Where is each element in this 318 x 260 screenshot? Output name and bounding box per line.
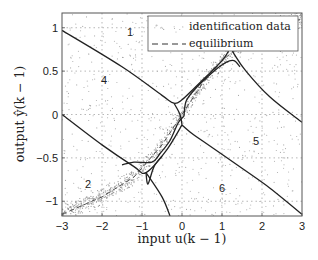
data-point — [132, 175, 133, 176]
data-point — [248, 178, 249, 179]
data-point — [96, 202, 97, 203]
data-point — [254, 118, 255, 119]
data-point — [224, 54, 225, 55]
data-point — [166, 135, 167, 136]
data-point — [217, 76, 218, 77]
data-point — [254, 96, 255, 97]
data-point — [107, 197, 108, 198]
data-point — [159, 127, 160, 128]
data-point — [176, 122, 177, 123]
data-point — [277, 128, 278, 129]
data-point — [136, 41, 137, 42]
data-point — [184, 118, 185, 119]
data-point — [107, 88, 108, 89]
data-point — [102, 204, 103, 205]
data-point — [250, 204, 251, 205]
data-point — [157, 145, 158, 146]
x-axis-label: input u(k − 1) — [138, 231, 227, 246]
data-point — [165, 66, 166, 67]
data-point — [283, 126, 284, 127]
data-point — [277, 144, 278, 145]
data-point — [256, 127, 257, 128]
data-point — [93, 199, 94, 200]
data-point — [152, 154, 153, 155]
data-point — [106, 207, 107, 208]
data-point — [107, 117, 108, 118]
data-point — [283, 213, 284, 214]
data-point — [97, 199, 98, 200]
data-point — [112, 18, 113, 19]
data-point — [263, 212, 264, 213]
data-point — [103, 188, 104, 189]
data-point — [93, 196, 94, 197]
data-point — [204, 85, 205, 86]
data-point — [166, 127, 167, 128]
data-point — [276, 83, 277, 84]
data-point — [167, 132, 168, 133]
boundary-curve — [122, 116, 184, 165]
data-point — [264, 179, 265, 180]
data-point — [81, 108, 82, 109]
data-point — [131, 182, 132, 183]
data-point — [208, 80, 209, 81]
data-point — [198, 172, 199, 173]
data-point — [91, 62, 92, 63]
data-point — [263, 85, 264, 86]
data-point — [286, 60, 287, 61]
data-point — [296, 136, 297, 137]
data-point — [83, 87, 84, 88]
data-point — [112, 24, 113, 25]
data-point — [300, 134, 301, 135]
data-point — [221, 156, 222, 157]
data-point — [249, 141, 250, 142]
data-point — [98, 206, 99, 207]
data-point — [62, 217, 63, 218]
data-point — [100, 195, 101, 196]
data-point — [176, 76, 177, 77]
data-point — [83, 201, 84, 202]
data-point — [80, 204, 81, 205]
data-point — [152, 113, 153, 114]
data-point — [143, 164, 144, 165]
data-point — [125, 129, 126, 130]
data-point — [174, 144, 175, 145]
data-point — [157, 144, 158, 145]
data-point — [232, 57, 233, 58]
data-point — [251, 156, 252, 157]
region-label: 2 — [85, 178, 91, 190]
data-point — [220, 199, 221, 200]
data-point — [206, 122, 207, 123]
data-point — [187, 182, 188, 183]
data-point — [105, 196, 106, 197]
data-point — [117, 58, 118, 59]
data-point — [189, 110, 190, 111]
data-point — [230, 193, 231, 194]
data-point — [297, 84, 298, 85]
data-point — [185, 167, 186, 168]
data-point — [124, 177, 125, 178]
data-point — [128, 179, 129, 180]
data-point — [128, 44, 129, 45]
data-point — [160, 142, 161, 143]
data-point — [292, 98, 293, 99]
data-point — [277, 199, 278, 200]
data-point — [251, 58, 252, 59]
data-point — [82, 166, 83, 167]
data-point — [68, 96, 69, 97]
data-point — [108, 185, 109, 186]
data-point — [128, 182, 129, 183]
data-point — [287, 183, 288, 184]
data-point — [181, 86, 182, 87]
data-point — [143, 170, 144, 171]
data-point — [210, 77, 211, 78]
data-point — [130, 184, 131, 185]
data-point — [208, 71, 209, 72]
data-point — [169, 126, 170, 127]
data-point — [264, 133, 265, 134]
legend-dot — [162, 28, 163, 29]
data-point — [280, 64, 281, 65]
data-point — [159, 175, 160, 176]
data-point — [87, 158, 88, 159]
data-point — [295, 121, 296, 122]
data-point — [118, 184, 119, 185]
